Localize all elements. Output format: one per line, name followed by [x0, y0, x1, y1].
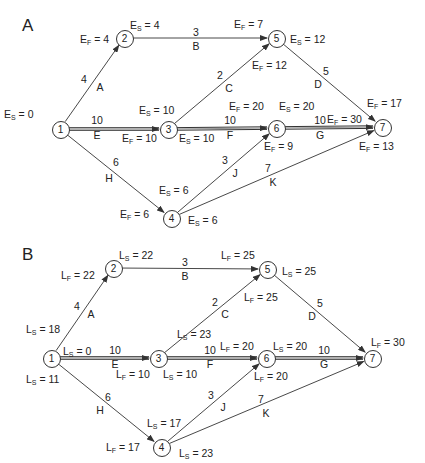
edge-activity-b: B [192, 40, 199, 52]
time-label-var: E [130, 19, 137, 31]
edge-activity-c: C [221, 308, 229, 320]
time-label-var: E [80, 33, 87, 45]
edge-duration-g: 10 [318, 344, 330, 356]
time-label-value: = 25 [231, 249, 255, 261]
time-label-value: = 0 [16, 108, 34, 120]
time-label-var: E [252, 59, 259, 71]
time-label: ES = 10 [139, 104, 174, 120]
time-label: LS = 22 [119, 249, 153, 265]
edge-duration-c: 2 [217, 69, 223, 81]
time-label: ES = 10 [179, 132, 214, 148]
time-label-value: = 30 [381, 336, 405, 348]
time-label: LF = 22 [61, 269, 95, 285]
time-label-value: = 6 [200, 214, 218, 226]
time-label-var: E [264, 140, 271, 152]
time-label-value: = 17 [116, 441, 140, 453]
time-label: ES = 4 [130, 19, 160, 35]
edge-duration-g: 10 [314, 114, 326, 126]
time-label-value: = 10 [126, 368, 150, 380]
time-label-var: E [290, 33, 297, 45]
time-label-value: = 7 [245, 18, 263, 30]
time-label-var: E [359, 140, 366, 152]
time-label-value: = 22 [71, 269, 95, 281]
node-b-3: 3 [150, 350, 168, 368]
edge-a-e [69, 128, 159, 131]
time-label-value: = 23 [190, 447, 214, 459]
time-label-value: = 18 [37, 323, 61, 335]
edge-activity-j: J [232, 167, 237, 179]
time-label: LF = 25 [244, 291, 278, 307]
time-label-value: = 20 [264, 370, 288, 382]
time-label-value: = 25 [254, 291, 278, 303]
edge-activity-h: H [105, 172, 113, 184]
edges-layer [56, 38, 375, 444]
time-label: EF = 17 [367, 97, 402, 113]
time-label-value: = 20 [230, 340, 254, 352]
edge-duration-b: 3 [193, 26, 199, 38]
time-label-var: E [159, 184, 166, 196]
edge-activity-d: D [308, 310, 316, 322]
edge-duration-d: 5 [323, 65, 329, 77]
edge-duration-a: 4 [74, 300, 80, 312]
time-label-value: = 17 [378, 97, 402, 109]
time-label: LF = 20 [220, 340, 254, 356]
edge-a-f [177, 127, 267, 130]
time-label: ES = 6 [188, 214, 218, 230]
node-a-3: 3 [160, 121, 178, 139]
time-label-value: = 25 [293, 265, 317, 277]
time-label-value: = 23 [188, 328, 212, 340]
node-a-7: 7 [374, 119, 392, 137]
time-label: EF = 9 [264, 140, 293, 156]
edge-b-b [122, 268, 258, 269]
time-label: EF = 13 [359, 140, 394, 156]
time-label-value: = 12 [263, 59, 287, 71]
edge-activity-k: K [262, 407, 269, 419]
node-a-5: 5 [268, 30, 286, 48]
time-label-var: E [4, 108, 11, 120]
time-label-var: E [327, 113, 334, 125]
edge-activity-b: B [181, 270, 188, 282]
time-label-value: = 9 [275, 140, 293, 152]
time-label-value: = 22 [130, 249, 154, 261]
time-label: LF = 20 [254, 370, 288, 386]
time-label-var: E [367, 97, 374, 109]
time-label: LS = 20 [273, 340, 307, 356]
time-label-var: E [120, 208, 127, 220]
time-label-var: E [139, 104, 146, 116]
edge-a-a [65, 45, 119, 121]
node-b-4: 4 [153, 439, 171, 457]
node-a-4: 4 [163, 210, 181, 228]
edge-activity-h: H [96, 404, 104, 416]
time-label-value: = 20 [240, 100, 264, 112]
time-label-var: E [234, 18, 241, 30]
time-label: EF = 10 [122, 132, 157, 148]
edge-activity-g: G [320, 358, 328, 370]
edge-duration-b: 3 [182, 256, 188, 268]
time-label-value: = 6 [131, 208, 149, 220]
edge-activity-g: G [316, 129, 324, 141]
edge-duration-c: 2 [212, 296, 218, 308]
edge-activity-j: J [220, 401, 225, 413]
time-label: EF = 20 [229, 100, 264, 116]
time-label-value: = 6 [171, 184, 189, 196]
time-label-value: = 10 [174, 368, 198, 380]
edge-duration-a: 4 [81, 73, 87, 85]
time-label-value: = 20 [284, 340, 308, 352]
time-label-value: = 11 [37, 373, 60, 385]
time-label: ES = 6 [159, 184, 189, 200]
edge-activity-c: C [225, 82, 233, 94]
time-label: LS = 11 [26, 373, 59, 389]
edge-duration-j: 3 [222, 154, 228, 166]
edge-activity-e: E [93, 129, 100, 141]
time-label-var: E [229, 100, 236, 112]
edge-activity-a: A [96, 81, 103, 93]
edge-duration-e: 10 [91, 114, 103, 126]
time-label-value: = 10 [151, 104, 175, 116]
edge-duration-h: 6 [113, 156, 119, 168]
time-label-var: E [279, 100, 286, 112]
node-a-1: 1 [52, 121, 70, 139]
time-label: LF = 30 [371, 336, 405, 352]
edge-duration-f: 10 [204, 344, 216, 356]
time-label: EF = 12 [252, 59, 287, 75]
time-label: LS = 25 [282, 265, 316, 281]
